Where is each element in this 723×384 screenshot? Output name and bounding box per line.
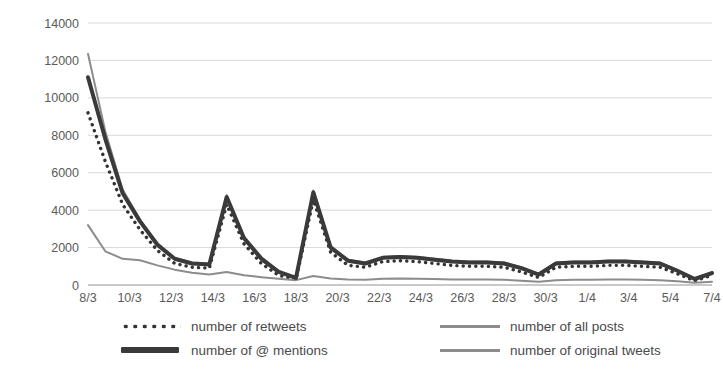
legend-item-retweets: number of retweets (118, 314, 328, 338)
legend-item-mentions: number of @ mentions (118, 338, 328, 362)
legend-column-left: number of retweets number of @ mentions (118, 314, 328, 362)
y-axis-tick-label: 10000 (44, 91, 79, 105)
legend-label-retweets: number of retweets (191, 319, 307, 334)
y-axis-tick-label: 0 (72, 279, 79, 293)
series-line-number-of-original-tweets (88, 225, 712, 283)
y-axis-tick-label: 6000 (51, 166, 79, 180)
line-chart-svg: 02000400060008000100001200014000 8/310/3… (0, 0, 723, 310)
data-series-group (88, 54, 712, 283)
thin-line-key-original-tweets (437, 343, 503, 357)
y-axis-tick-label: 12000 (44, 54, 79, 68)
y-axis-tick-label: 2000 (51, 241, 79, 255)
y-axis-tick-label: 14000 (44, 17, 79, 31)
x-axis-tick-label: 30/3 (533, 291, 557, 305)
x-axis-tick-label: 18/3 (284, 291, 308, 305)
x-axis-tick-label: 1/4 (579, 291, 596, 305)
chart-container: 02000400060008000100001200014000 8/310/3… (0, 0, 723, 384)
x-axis-tick-label: 3/4 (620, 291, 637, 305)
x-axis-tick-label: 12/3 (159, 291, 183, 305)
gridlines (88, 23, 712, 285)
x-axis-tick-label: 16/3 (242, 291, 266, 305)
x-axis-tick-label: 7/4 (703, 291, 720, 305)
dotted-line-key (118, 319, 184, 333)
x-axis-tick-label: 10/3 (117, 291, 141, 305)
chart-legend: number of retweets number of @ mentions … (0, 314, 723, 384)
x-axis-tick-label: 8/3 (79, 291, 96, 305)
y-axis-tick-labels: 02000400060008000100001200014000 (44, 17, 79, 293)
x-axis-tick-label: 5/4 (662, 291, 679, 305)
legend-column-right: number of all posts number of original t… (437, 314, 661, 362)
x-axis-tick-labels: 8/310/312/314/316/318/320/322/324/326/32… (79, 291, 720, 305)
plot-area: 02000400060008000100001200014000 8/310/3… (0, 0, 723, 310)
x-axis-tick-label: 22/3 (367, 291, 391, 305)
x-axis-tick-label: 14/3 (201, 291, 225, 305)
legend-label-original-tweets: number of original tweets (510, 343, 661, 358)
x-axis-tick-label: 28/3 (492, 291, 516, 305)
legend-label-all-posts: number of all posts (510, 319, 624, 334)
legend-item-all-posts: number of all posts (437, 314, 661, 338)
thick-line-key (118, 343, 184, 357)
series-line-number-of-all-posts (88, 54, 712, 279)
x-axis-tick-label: 26/3 (450, 291, 474, 305)
x-axis-tick-label: 24/3 (409, 291, 433, 305)
x-axis-tick-label: 20/3 (325, 291, 349, 305)
y-axis-tick-label: 8000 (51, 129, 79, 143)
series-line-number-of-mentions (88, 77, 712, 279)
thin-line-key-all-posts (437, 319, 503, 333)
legend-item-original-tweets: number of original tweets (437, 338, 661, 362)
legend-label-mentions: number of @ mentions (191, 343, 328, 358)
y-axis-tick-label: 4000 (51, 204, 79, 218)
